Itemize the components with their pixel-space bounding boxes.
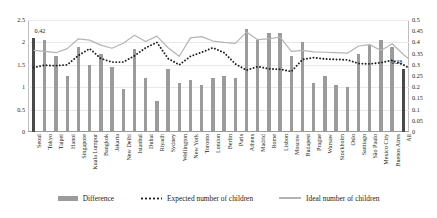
legend-label: Difference — [83, 194, 114, 203]
x-axis-label-singapore: Singapore — [81, 134, 87, 159]
x-axis-label-mexico-city: Mexico City — [383, 134, 389, 165]
legend-label: Expected number of children — [167, 194, 253, 203]
line-expected-number-of-children — [34, 42, 409, 71]
y-axis-right-tick-label: 0.25 — [412, 73, 423, 79]
line-series-group — [28, 20, 409, 132]
x-axis-label-tokyo: Tokyo — [47, 134, 53, 149]
x-axis-label-sydney: Sydney — [170, 134, 176, 152]
y-axis-right-tick-label: 0 — [412, 129, 415, 135]
y-axis-right-tick-label: 0.15 — [412, 95, 423, 101]
x-axis-label-budapest: Budapest — [305, 134, 311, 157]
x-axis-label-london: London — [215, 134, 221, 153]
x-axis-label-jakarta: Jakarta — [114, 134, 120, 151]
x-axis-label-wellington: Wellington — [182, 134, 188, 161]
legend-item-difference: Difference — [58, 194, 114, 203]
x-axis-label-seoul: Seoul — [36, 134, 42, 148]
x-axis-label-toronto: Toronto — [204, 134, 210, 153]
x-axis-label-bangkok: Bangkok — [103, 134, 109, 156]
x-axis-label-all: All — [406, 134, 412, 142]
x-axis-label-dubai: Dubai — [148, 134, 154, 149]
y-axis-left-tick-label: 0 — [3, 129, 25, 135]
x-axis-label-rome: Rome — [271, 134, 277, 149]
y-axis-right-tick-label: 0.35 — [412, 51, 423, 57]
legend-item-expected-number-of-children: Expected number of children — [140, 194, 253, 203]
y-axis-left-tick-label: 2.5 — [3, 17, 25, 23]
y-axis-right-tick-label: 0.1 — [412, 107, 420, 113]
y-axis-right-tick-label: 0.4 — [412, 39, 420, 45]
chart-legend: DifferenceExpected number of childrenIde… — [0, 190, 437, 206]
x-axis-label-riyadh: Riyadh — [159, 134, 165, 152]
x-axis-label-prague: Prague — [316, 134, 322, 151]
x-axis-label-madrid: Madrid — [260, 134, 266, 152]
x-axis-label-warsaw: Warsaw — [327, 134, 333, 153]
x-axis-label-kuala-lumpur: Kuala Lumpur — [92, 134, 98, 170]
legend-item-ideal-number-of-children: Ideal number of children — [279, 194, 379, 203]
y-axis-left-tick-label: 1 — [3, 84, 25, 90]
solid-line-swatch-icon — [279, 197, 301, 198]
y-axis-right-tick-label: 0.05 — [412, 118, 423, 124]
y-axis-left-tick-label: 1.5 — [3, 62, 25, 68]
line-ideal-number-of-children — [34, 32, 409, 59]
x-axis-label-berlin: Berlin — [227, 134, 233, 149]
y-axis-right-tick-label: 0.2 — [412, 84, 420, 90]
chart-container: 0.420.28 2.521.510.50 0.50.450.40.350.30… — [0, 0, 437, 218]
x-axis-label-buenos-aires: Buenos Aires — [395, 134, 401, 167]
y-axis-right-tick-label: 0.5 — [412, 17, 420, 23]
y-axis-right-tick-label: 0.3 — [412, 62, 420, 68]
dotted-line-swatch-icon — [140, 197, 162, 200]
x-axis-label-athens: Athens — [249, 134, 255, 151]
x-axis-label-são-paulo: São Paulo — [372, 134, 378, 159]
bar-swatch-icon — [58, 196, 78, 201]
x-axis-labels: SeoulTokyoTaipeiHanoiSingaporeKuala Lump… — [28, 134, 409, 186]
x-axis-label-santiago: Santiago — [361, 134, 367, 155]
x-axis-label-istanbul: Istanbul — [137, 134, 143, 154]
x-axis-label-new-york: New York — [193, 134, 199, 159]
legend-label: Ideal number of children — [306, 194, 379, 203]
x-axis-label-stockholm: Stockholm — [339, 134, 345, 160]
plot-area: 0.420.28 — [28, 20, 409, 132]
x-axis-label-hanoi: Hanoi — [70, 134, 76, 149]
y-axis-left-tick-label: 0.5 — [3, 107, 25, 113]
x-axis-label-lisbon: Lisbon — [283, 134, 289, 151]
x-axis-label-taipei: Taipei — [58, 134, 64, 149]
x-axis-label-paris: Paris — [238, 134, 244, 146]
y-axis-right-tick-label: 0.45 — [412, 28, 423, 34]
x-axis-label-new-delhi: New Delhi — [126, 134, 132, 161]
y-axis-left-tick-label: 2 — [3, 39, 25, 45]
x-axis-label-oslo: Oslo — [350, 134, 356, 146]
x-axis-label-moscow: Moscow — [294, 134, 300, 155]
